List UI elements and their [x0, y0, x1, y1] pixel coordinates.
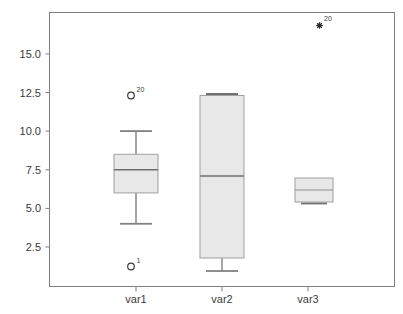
boxplot-chart: 2.5 5.0 7.5 10.0 12.5 15.0 var1 var2 var… [0, 0, 403, 314]
y-tick-label-5_0: 5.0 [26, 202, 41, 214]
x-tick-label-var1: var1 [125, 293, 146, 305]
box-group-var2 [200, 94, 244, 271]
y-tick-label-15_0: 15.0 [20, 48, 41, 60]
y-tick-label-2_5: 2.5 [26, 241, 41, 253]
plot-canvas: 2.5 5.0 7.5 10.0 12.5 15.0 var1 var2 var… [0, 0, 403, 314]
extreme-outlier-label-var3: 20 [324, 15, 332, 22]
y-axis-tick-labels: 2.5 5.0 7.5 10.0 12.5 15.0 [20, 48, 41, 253]
x-axis-ticks [136, 287, 308, 292]
y-tick-label-10_0: 10.0 [20, 125, 41, 137]
y-axis-ticks [46, 54, 50, 247]
y-tick-label-7_5: 7.5 [26, 164, 41, 176]
y-tick-label-12_5: 12.5 [20, 87, 41, 99]
x-tick-label-var3: var3 [297, 293, 318, 305]
x-axis-tick-labels: var1 var2 var3 [125, 293, 318, 305]
x-tick-label-var2: var2 [211, 293, 232, 305]
box-body-var1 [114, 154, 158, 193]
outlier-label-var1-high: 20 [137, 86, 145, 93]
extreme-outlier-marker-var3 [316, 22, 322, 28]
outlier-label-var1-low: 1 [137, 257, 141, 264]
box-body-var2 [200, 96, 244, 259]
